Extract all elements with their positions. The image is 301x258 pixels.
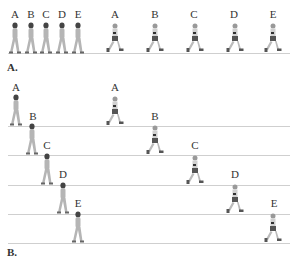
walker-figure	[39, 22, 53, 58]
walker-figure	[40, 153, 54, 189]
walker-figure	[25, 123, 39, 159]
ground-line	[8, 214, 290, 215]
walker-figure	[71, 211, 85, 247]
runner-label: A	[111, 9, 119, 20]
runner-label: C	[190, 9, 197, 20]
runner-figure	[186, 23, 204, 57]
runner-label: B	[151, 9, 158, 20]
runner-figure	[226, 184, 244, 218]
panel-label: A.	[7, 62, 18, 73]
ground-line	[8, 243, 290, 244]
runner-label: A	[111, 82, 119, 93]
runner-figure	[226, 23, 244, 57]
walker-label: C	[42, 9, 49, 20]
walker-label: E	[75, 198, 82, 209]
walker-label: B	[27, 9, 34, 20]
runner-label: E	[271, 198, 278, 209]
walker-figure	[9, 94, 23, 130]
runner-figure	[264, 213, 282, 247]
runner-label: D	[231, 169, 239, 180]
walker-label: A	[12, 82, 20, 93]
walker-label: B	[29, 111, 36, 122]
runner-label: E	[270, 9, 277, 20]
walker-figure	[71, 22, 85, 58]
walker-figure	[8, 22, 22, 58]
runner-figure	[264, 23, 282, 57]
runner-figure	[106, 23, 124, 57]
walker-figure	[56, 182, 70, 218]
walker-label: C	[43, 140, 50, 151]
runner-figure	[146, 125, 164, 159]
runner-label: B	[151, 111, 158, 122]
walker-figure	[55, 22, 69, 58]
runner-label: C	[191, 140, 198, 151]
walker-label: A	[11, 9, 19, 20]
panel-label: B.	[7, 247, 17, 258]
walker-label: D	[59, 169, 67, 180]
runner-figure	[186, 155, 204, 189]
walker-figure	[24, 22, 38, 58]
runner-figure	[146, 23, 164, 57]
runner-figure	[106, 96, 124, 130]
walker-label: D	[58, 9, 66, 20]
walker-label: E	[75, 9, 82, 20]
runner-label: D	[230, 9, 238, 20]
